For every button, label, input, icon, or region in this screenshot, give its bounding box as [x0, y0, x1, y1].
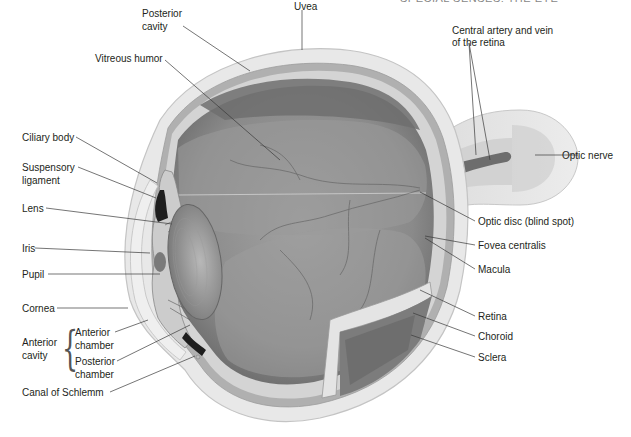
label-posterior-chamber-line2: chamber — [75, 368, 114, 381]
label-ciliary-body: Ciliary body — [22, 131, 74, 144]
label-choroid: Choroid — [478, 330, 513, 343]
label-posterior-cavity-line1: Posterior — [142, 7, 182, 20]
label-cornea: Cornea — [22, 302, 55, 315]
label-anterior-cavity-line2: cavity — [22, 349, 48, 362]
label-lens: Lens — [22, 202, 44, 215]
label-canal-of-schlemm: Canal of Schlemm — [22, 386, 104, 399]
label-suspensory-ligament-line1: Suspensory — [22, 161, 75, 174]
label-optic-disc: Optic disc (blind spot) — [478, 215, 574, 228]
label-pupil: Pupil — [22, 268, 44, 281]
label-retina: Retina — [478, 310, 507, 323]
page-header-fragment: SPECIAL SENSES: THE EYE — [400, 0, 558, 4]
label-anterior-chamber-line1: Anterior — [75, 326, 110, 339]
label-anterior-chamber-line2: chamber — [75, 339, 114, 352]
label-anterior-cavity-line1: Anterior — [22, 336, 57, 349]
label-posterior-chamber-line1: Posterior — [75, 355, 115, 368]
label-uvea: Uvea — [294, 0, 317, 13]
label-fovea-centralis: Fovea centralis — [478, 239, 546, 252]
label-posterior-cavity-line2: cavity — [142, 20, 168, 33]
label-macula: Macula — [478, 263, 510, 276]
label-central-artery-line2: of the retina — [452, 36, 505, 49]
label-iris: Iris — [22, 242, 35, 255]
label-optic-nerve: Optic nerve — [562, 149, 613, 162]
label-suspensory-ligament-line2: ligament — [22, 174, 60, 187]
label-sclera: Sclera — [478, 351, 506, 364]
label-vitreous-humor: Vitreous humor — [95, 52, 163, 65]
